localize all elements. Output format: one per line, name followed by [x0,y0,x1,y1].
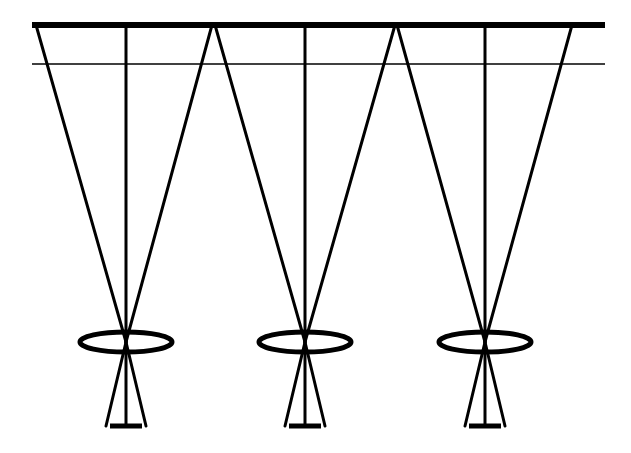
image-cone-right [126,342,146,426]
fov-left-ray [215,25,305,342]
fov-right-ray [485,25,572,342]
cameras-group [36,25,572,426]
fov-left-ray [397,25,485,342]
image-cone-right [305,342,325,426]
image-cone-left [465,342,485,426]
image-cone-left [106,342,126,426]
camera-3 [397,25,572,426]
fov-right-ray [126,25,212,342]
image-cone-left [285,342,305,426]
image-cone-right [485,342,505,426]
diagram-svg [0,0,631,453]
fov-right-ray [305,25,395,342]
fov-left-ray [36,25,126,342]
camera-1 [36,25,212,426]
multi-camera-diagram [0,0,631,453]
camera-2 [215,25,395,426]
